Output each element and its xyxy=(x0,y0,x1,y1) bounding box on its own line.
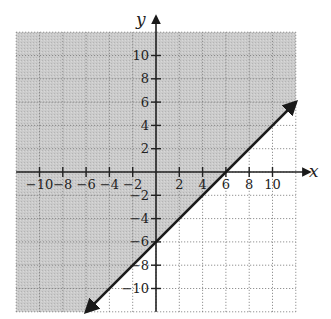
x-tick-label: −8 xyxy=(53,177,72,192)
x-tick-label: −6 xyxy=(77,177,96,192)
x-tick-label: 8 xyxy=(245,177,253,192)
x-tick-label: 10 xyxy=(264,177,281,192)
x-tick-label: 6 xyxy=(222,177,230,192)
x-tick-label: −4 xyxy=(100,177,119,192)
y-tick-label: −10 xyxy=(122,281,149,296)
x-tick-label: 2 xyxy=(175,177,183,192)
coordinate-plane: −10−8−6−4−2246810−10−8−6−4−2246810 x y xyxy=(0,0,331,319)
x-axis-label: x xyxy=(309,161,319,181)
y-tick-label: −2 xyxy=(130,188,149,203)
y-tick-label: 6 xyxy=(141,95,149,110)
y-tick-label: 4 xyxy=(141,118,149,133)
y-tick-label: −6 xyxy=(130,234,149,249)
y-tick-label: −4 xyxy=(130,211,149,226)
y-axis-label: y xyxy=(135,9,146,29)
x-tick-label: 4 xyxy=(198,177,206,192)
y-tick-label: 2 xyxy=(141,141,149,156)
x-tick-label: −10 xyxy=(26,177,53,192)
y-tick-label: 8 xyxy=(141,71,149,86)
y-tick-label: 10 xyxy=(132,48,149,63)
